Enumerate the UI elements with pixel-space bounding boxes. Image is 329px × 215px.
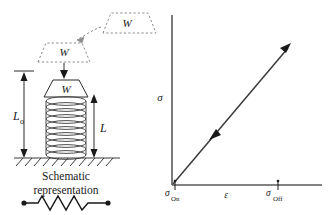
- stress-strain-chart: σ σ On ε σ Off: [157, 15, 322, 203]
- schematic-caption-line1: Schematic: [42, 170, 90, 182]
- dimension-L0: L o: [12, 71, 34, 158]
- weight-block-top-dashed: W: [103, 13, 156, 33]
- L0-arrowhead-top: [21, 72, 28, 81]
- weight-mid-label: W: [59, 46, 69, 58]
- sigma-off-sublabel: Off: [273, 195, 283, 203]
- sigma-off-marker: σ Off: [266, 180, 283, 203]
- weight-block-on-spring: W: [44, 80, 88, 97]
- sigma-on-tick-dot: [174, 180, 177, 183]
- L0-arrowhead-bottom: [21, 149, 28, 158]
- motion-arrow-dashed: [77, 27, 101, 43]
- weight-top-label: W: [122, 17, 132, 29]
- schematic-caption-line2: representation: [33, 184, 98, 197]
- sigma-off-label: σ: [266, 188, 271, 198]
- ground-hatch: [43, 158, 50, 166]
- ground-hatch: [97, 158, 104, 166]
- arrowhead-mid-down-left: [209, 129, 221, 140]
- ground-hatch: [25, 158, 32, 166]
- ground-hatch: [79, 158, 86, 166]
- sigma-off-tick-dot: [277, 180, 280, 183]
- ground-hatch: [88, 158, 95, 166]
- x-axis-label: ε: [224, 190, 228, 200]
- L0-label: L: [12, 109, 20, 123]
- spring-schematic-panel: W W W: [12, 13, 156, 210]
- ground-hatch: [34, 158, 41, 166]
- L-label: L: [99, 121, 107, 135]
- L-arrowhead-bottom: [91, 149, 98, 158]
- spring-symbol-node-left: [21, 200, 26, 205]
- zigzag-spring-symbol: [21, 196, 110, 210]
- ground-hatch: [106, 158, 113, 166]
- spring-symbol-zigzag: [26, 196, 106, 210]
- load-arrowhead: [60, 70, 68, 79]
- motion-arrow-curve: [77, 27, 101, 40]
- coil-spring: [46, 97, 86, 160]
- arrowhead-up-right: [280, 43, 291, 53]
- hatched-ground: [14, 158, 120, 166]
- weight-on-spring-label: W: [61, 83, 71, 95]
- y-axis-label: σ: [157, 91, 163, 103]
- sigma-on-label: σ: [165, 188, 170, 198]
- dimension-L: L: [91, 94, 108, 158]
- L-arrowhead-top: [91, 94, 98, 103]
- weight-block-mid-dashed: W: [38, 43, 90, 62]
- figure-svg: W W W: [0, 0, 329, 215]
- ground-hatch: [16, 158, 23, 166]
- L0-label-subscript: o: [20, 117, 24, 126]
- stress-strain-line: [173, 48, 288, 184]
- figure-root: W W W: [0, 0, 329, 215]
- spring-symbol-node-right: [105, 200, 110, 205]
- sigma-on-sublabel: On: [171, 195, 180, 203]
- load-arrow-down: [60, 63, 68, 79]
